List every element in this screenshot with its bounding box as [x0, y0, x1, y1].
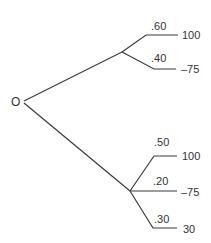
payoff-label: 30	[183, 223, 195, 235]
root-node-label: O	[11, 95, 20, 109]
payoff-label: 100	[182, 150, 200, 162]
probability-label: .30	[154, 213, 169, 225]
upper-branch-2: .40 –75	[122, 52, 199, 75]
payoff-label: –75	[181, 186, 199, 198]
lower-branch-2: .20 –75	[130, 175, 199, 198]
edge-root-upper	[24, 52, 122, 101]
probability-label: .50	[154, 136, 169, 148]
probability-label: .40	[151, 52, 166, 64]
probability-label: .60	[151, 20, 166, 32]
probability-label: .20	[153, 175, 168, 187]
payoff-label: 100	[182, 29, 200, 41]
payoff-label: –75	[181, 63, 199, 75]
edge-root-lower	[24, 103, 130, 191]
upper-branch-1: .60 100	[122, 20, 200, 52]
decision-tree: O .60 100 .40 –75 .50 100 .20 –75 .30 30	[0, 0, 211, 243]
